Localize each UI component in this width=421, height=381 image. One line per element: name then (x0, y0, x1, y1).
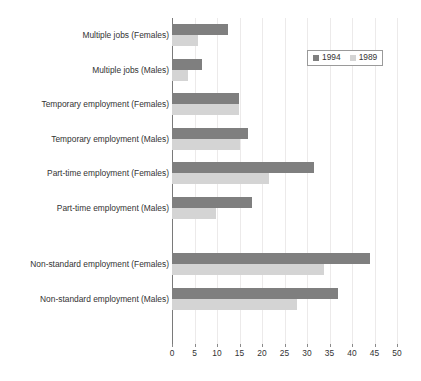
gridline (352, 18, 353, 344)
bar-1994 (172, 253, 370, 264)
x-tick-mark (307, 344, 308, 347)
plot-area (172, 18, 397, 344)
bar-1994 (172, 128, 248, 139)
x-tick-mark (375, 344, 376, 347)
category-label: Non-standard employment (Males) (4, 294, 172, 304)
category-axis: Multiple jobs (Females)Multiple jobs (Ma… (0, 18, 172, 344)
category-label: Multiple jobs (Males) (4, 65, 172, 75)
x-tick-label: 10 (212, 348, 221, 358)
x-tick-mark (217, 344, 218, 347)
x-tick-label: 40 (347, 348, 356, 358)
bar-1989 (172, 173, 269, 184)
x-tick-label: 45 (370, 348, 379, 358)
legend-label-1989: 1989 (359, 53, 378, 62)
x-tick-mark (240, 344, 241, 347)
x-tick-label: 0 (170, 348, 175, 358)
bar-1989 (172, 104, 239, 115)
category-label: Part-time employment (Males) (4, 203, 172, 213)
x-tick-mark (172, 344, 173, 347)
bar-1989 (172, 70, 188, 81)
x-tick-mark (352, 344, 353, 347)
x-tick-label: 20 (257, 348, 266, 358)
bar-1989 (172, 208, 216, 219)
bar-1989 (172, 264, 324, 275)
bar-1989 (172, 139, 240, 150)
x-tick-label: 30 (302, 348, 311, 358)
x-tick-label: 25 (280, 348, 289, 358)
x-tick-label: 35 (325, 348, 334, 358)
gridline (397, 18, 398, 344)
category-label: Part-time employment (Females) (4, 168, 172, 178)
legend-swatch-1989-icon (350, 55, 356, 61)
x-tick-mark (285, 344, 286, 347)
legend-item-1994[interactable]: 1994 (313, 53, 341, 62)
gridline (375, 18, 376, 344)
legend-item-1989[interactable]: 1989 (350, 53, 378, 62)
x-tick-label: 15 (235, 348, 244, 358)
bar-1989 (172, 299, 297, 310)
category-label: Non-standard employment (Females) (4, 259, 172, 269)
x-tick-mark (397, 344, 398, 347)
legend-swatch-1994-icon (313, 55, 319, 61)
bar-1994 (172, 162, 314, 173)
category-label: Temporary employment (Males) (4, 134, 172, 144)
bar-chart: Multiple jobs (Females)Multiple jobs (Ma… (0, 0, 421, 381)
x-tick-label: 50 (392, 348, 401, 358)
category-label: Multiple jobs (Females) (4, 30, 172, 40)
x-tick-mark (262, 344, 263, 347)
chart-legend[interactable]: 1994 1989 (307, 50, 383, 66)
category-label: Temporary employment (Females) (4, 99, 172, 109)
value-axis: 05101520253035404550 (172, 344, 398, 364)
x-tick-mark (195, 344, 196, 347)
bar-1989 (172, 35, 198, 46)
legend-label-1994: 1994 (322, 53, 341, 62)
bar-1994 (172, 93, 239, 104)
bar-1994 (172, 24, 228, 35)
bar-1994 (172, 59, 202, 70)
bar-1994 (172, 288, 338, 299)
bar-1994 (172, 197, 252, 208)
x-tick-mark (330, 344, 331, 347)
x-tick-label: 5 (192, 348, 197, 358)
